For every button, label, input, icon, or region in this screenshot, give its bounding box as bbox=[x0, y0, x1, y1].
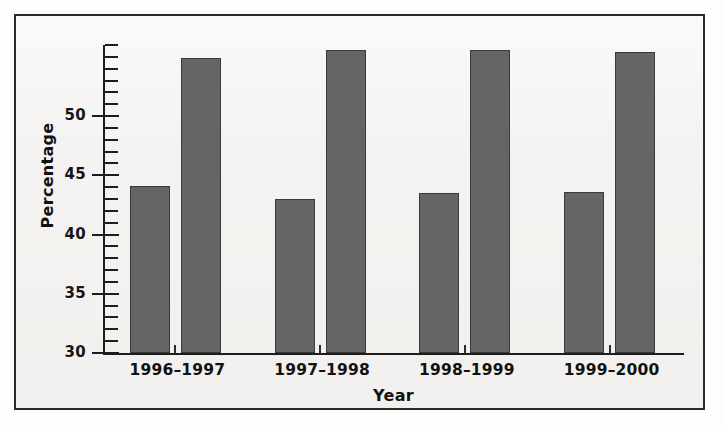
group-separator-tick bbox=[609, 345, 611, 354]
y-tick-minor bbox=[105, 305, 118, 307]
y-tick-label: 45 bbox=[65, 165, 86, 183]
bar bbox=[419, 193, 459, 353]
y-tick-minor bbox=[105, 80, 118, 82]
y-tick-minor bbox=[105, 44, 118, 46]
y-tick-major bbox=[92, 293, 119, 295]
x-tick-label: 1998–1999 bbox=[395, 361, 540, 379]
y-tick-major bbox=[92, 234, 119, 236]
x-axis-title: Year bbox=[103, 386, 684, 405]
y-tick-label: 35 bbox=[65, 284, 86, 302]
y-tick-minor bbox=[105, 328, 118, 330]
bar bbox=[615, 52, 655, 353]
y-tick-minor bbox=[105, 151, 118, 153]
group-separator-tick bbox=[174, 345, 176, 354]
y-tick-minor bbox=[105, 316, 118, 318]
y-tick-minor bbox=[105, 186, 118, 188]
y-tick-minor bbox=[105, 257, 118, 259]
x-tick-label: 1999–2000 bbox=[539, 361, 684, 379]
y-tick-major bbox=[92, 352, 119, 354]
y-tick-minor bbox=[105, 198, 118, 200]
chart-frame: 3035404550 1996–19971997–19981998–199919… bbox=[14, 14, 705, 410]
y-tick-label: 30 bbox=[65, 343, 86, 361]
y-tick-minor bbox=[105, 91, 118, 93]
y-tick-minor bbox=[105, 281, 118, 283]
bar bbox=[326, 50, 366, 353]
bar bbox=[181, 58, 221, 353]
y-tick-major bbox=[92, 115, 119, 117]
y-tick-minor bbox=[105, 245, 118, 247]
bar bbox=[130, 186, 170, 353]
y-tick-minor bbox=[105, 103, 118, 105]
bar bbox=[275, 199, 315, 353]
y-tick-minor bbox=[105, 139, 118, 141]
group-separator-tick bbox=[464, 345, 466, 354]
x-tick-label: 1996–1997 bbox=[105, 361, 250, 379]
y-axis-title: Percentage bbox=[38, 81, 57, 271]
y-tick-minor bbox=[105, 210, 118, 212]
y-tick-minor bbox=[105, 56, 118, 58]
plot-area: 3035404550 1996–19971997–19981998–199919… bbox=[16, 16, 707, 412]
group-separator-tick bbox=[319, 345, 321, 354]
y-tick-minor bbox=[105, 269, 118, 271]
y-tick-major bbox=[92, 174, 119, 176]
y-tick-minor bbox=[105, 162, 118, 164]
x-axis-line bbox=[103, 353, 684, 355]
y-tick-minor bbox=[105, 222, 118, 224]
bar bbox=[470, 50, 510, 353]
figure-root: 3035404550 1996–19971997–19981998–199919… bbox=[0, 0, 723, 429]
y-tick-minor bbox=[105, 68, 118, 70]
x-tick-label: 1997–1998 bbox=[250, 361, 395, 379]
y-tick-minor bbox=[105, 127, 118, 129]
bar bbox=[564, 192, 604, 353]
y-tick-label: 40 bbox=[65, 225, 86, 243]
y-tick-label: 50 bbox=[65, 106, 86, 124]
y-tick-minor bbox=[105, 340, 118, 342]
